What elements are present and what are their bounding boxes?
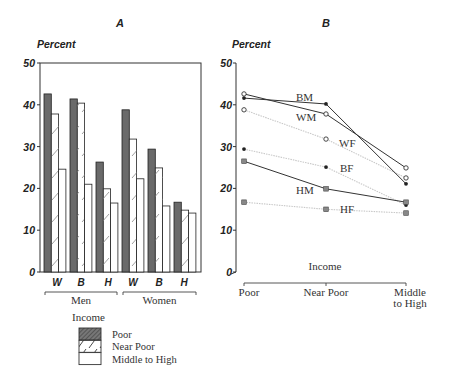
marker-hm xyxy=(404,200,409,205)
y-tick-label: 0 xyxy=(29,266,35,278)
y-tick-label: 10 xyxy=(23,224,35,236)
legend-swatch-near-poor xyxy=(79,340,101,352)
panel-a-title: A xyxy=(115,17,124,29)
panel-b-line-chart: B Percent 01020304050 WMBMWFBFHMHF Incom… xyxy=(219,17,427,309)
bar-middle-to-high xyxy=(59,169,66,272)
panel-a-legend: PoorNear PoorMiddle to High xyxy=(79,328,177,365)
bar-hatch xyxy=(155,168,162,272)
bar-poor xyxy=(148,149,155,272)
bar-middle-to-high xyxy=(137,179,144,272)
bar-middle-to-high xyxy=(163,206,170,272)
line-bf xyxy=(244,149,406,205)
marker-wf xyxy=(404,176,408,180)
marker-wf xyxy=(324,137,328,141)
legend-label: Poor xyxy=(112,329,132,340)
y-tick-label: 0 xyxy=(226,266,232,278)
bar-poor xyxy=(174,202,181,272)
series-label-bf: BF xyxy=(340,162,353,174)
group-label: Men xyxy=(71,294,92,306)
panel-a-bars xyxy=(44,94,196,272)
panel-b-x-axis: PoorNear PoorMiddleto High xyxy=(239,283,428,309)
x-category-label: B xyxy=(77,277,84,288)
panel-a-x-categories: WBHWBH xyxy=(52,277,188,288)
x-category-label: H xyxy=(180,277,188,288)
bar-middle-to-high xyxy=(85,184,92,272)
bar-middle-to-high xyxy=(189,213,196,272)
y-tick-label: 10 xyxy=(220,224,232,236)
figure: A Percent 01020304050 WBHWBH MenWomen In… xyxy=(0,0,449,388)
legend-label: Middle to High xyxy=(112,354,177,365)
y-tick-label: 20 xyxy=(22,182,35,194)
marker-bm xyxy=(404,182,408,186)
x-category-label: H xyxy=(104,277,112,288)
marker-bm xyxy=(324,102,328,106)
x-category-label: W xyxy=(52,277,63,288)
bar-middle-to-high xyxy=(111,203,118,272)
marker-wm xyxy=(242,92,246,96)
y-axis-line xyxy=(231,63,236,274)
y-tick-label: 50 xyxy=(23,57,35,69)
panel-b-y-axis: 01020304050 xyxy=(219,57,236,278)
bar-hatch xyxy=(181,210,188,272)
x-category-label: W xyxy=(128,277,139,288)
marker-hf xyxy=(404,211,409,216)
panel-b-ylabel: Percent xyxy=(232,38,271,50)
panel-a-y-axis: 01020304050 xyxy=(22,57,40,278)
marker-hm xyxy=(242,159,247,164)
bar-hatch xyxy=(103,189,110,272)
marker-wf xyxy=(242,108,246,112)
y-tick-label: 30 xyxy=(220,141,232,153)
panel-b-xlabel: Income xyxy=(309,260,342,272)
marker-bm xyxy=(242,96,246,100)
group-label: Women xyxy=(143,294,177,306)
y-tick-label: 40 xyxy=(22,99,35,111)
y-tick-label: 40 xyxy=(219,99,232,111)
marker-wm xyxy=(404,166,408,170)
series-label-wf: WF xyxy=(339,137,356,149)
bar-hatch xyxy=(51,114,58,272)
marker-wm xyxy=(324,112,328,116)
y-tick-label: 30 xyxy=(23,141,35,153)
bar-poor xyxy=(44,94,51,272)
x-category-label: B xyxy=(155,277,162,288)
y-tick-label: 50 xyxy=(220,57,232,69)
legend-label: Near Poor xyxy=(112,341,155,352)
marker-bf xyxy=(242,147,246,151)
y-tick-label: 20 xyxy=(219,182,232,194)
marker-hm xyxy=(324,187,329,192)
marker-bf xyxy=(324,165,328,169)
panel-a-ylabel: Percent xyxy=(37,38,76,50)
x-tick-label: Near Poor xyxy=(304,286,349,298)
legend-swatch-poor xyxy=(79,328,101,340)
panel-b-title: B xyxy=(322,17,330,29)
series-label-bm: BM xyxy=(296,91,313,103)
series-label-hf: HF xyxy=(340,203,354,215)
panel-b-series-labels: WMBMWFBFHMHF xyxy=(296,91,356,215)
bar-poor xyxy=(70,99,77,272)
panel-a-bar-chart: A Percent 01020304050 WBHWBH MenWomen In… xyxy=(22,17,201,365)
panel-a-group-brackets: MenWomen xyxy=(45,292,196,306)
bar-hatch xyxy=(129,139,136,272)
series-label-wm: WM xyxy=(296,111,316,123)
x-tick-label: Middleto High xyxy=(393,286,427,309)
bar-poor xyxy=(122,110,129,272)
marker-hf xyxy=(242,200,247,205)
x-tick-label: Poor xyxy=(239,286,260,298)
series-label-hm: HM xyxy=(296,184,314,196)
legend-swatch-middle-to-high xyxy=(79,353,101,365)
panel-a-legend-title: Income xyxy=(72,311,105,323)
marker-hf xyxy=(324,207,329,212)
bar-hatch xyxy=(77,103,84,272)
bar-poor xyxy=(96,162,103,272)
